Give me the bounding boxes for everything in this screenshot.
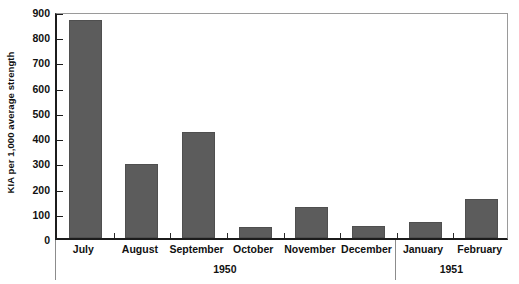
bar[interactable]	[465, 199, 498, 238]
x-axis-group-labels: 19501951	[55, 263, 508, 279]
y-axis-tick-label: 0	[18, 235, 50, 246]
x-axis-category-label: October	[233, 243, 273, 255]
plot-frame	[55, 13, 508, 240]
plot-area	[57, 14, 507, 238]
x-axis-category-label: September	[169, 243, 223, 255]
y-axis-tick-mark	[57, 14, 63, 15]
x-axis-tick-mark	[227, 233, 228, 238]
x-axis-category-label: July	[73, 243, 94, 255]
x-axis-tick-mark	[340, 233, 341, 238]
bar[interactable]	[295, 207, 328, 238]
y-axis-tick-mark	[57, 140, 63, 141]
x-axis-tick-mark	[453, 233, 454, 238]
bar-chart: KIA per 1,000 average strength 010020030…	[0, 0, 519, 284]
y-axis-tick-mark	[57, 115, 63, 116]
x-axis-group-label: 1951	[440, 263, 463, 275]
x-axis-category-label: December	[341, 243, 392, 255]
y-axis-tick-label: 800	[18, 33, 50, 44]
bar[interactable]	[182, 132, 215, 238]
y-axis-tick-label: 600	[18, 83, 50, 94]
y-axis-tick-mark	[57, 191, 63, 192]
bar[interactable]	[125, 164, 158, 238]
y-axis-tick-label: 700	[18, 58, 50, 69]
y-axis-tick-mark	[57, 216, 63, 217]
y-axis-tick-label: 500	[18, 109, 50, 120]
y-axis-tick-label: 200	[18, 184, 50, 195]
x-axis-tick-mark	[284, 233, 285, 238]
x-axis-tick-mark	[114, 233, 115, 238]
x-axis-category-label: January	[403, 243, 443, 255]
y-axis-tick-mark	[57, 39, 63, 40]
y-axis-tick-label: 400	[18, 134, 50, 145]
x-axis-tick-mark	[170, 233, 171, 238]
bar[interactable]	[409, 222, 442, 238]
y-axis-tick-labels: 0100200300400500600700800900	[18, 0, 50, 250]
y-axis-title: KIA per 1,000 average strength	[0, 0, 20, 245]
x-axis-category-label: February	[457, 243, 502, 255]
y-axis-tick-mark	[57, 64, 63, 65]
x-axis-group-separator	[395, 240, 396, 280]
x-axis-group-label: 1950	[213, 263, 236, 275]
x-axis-tick-mark	[397, 233, 398, 238]
x-axis-category-labels: JulyAugustSeptemberOctoberNovemberDecemb…	[55, 243, 508, 261]
bar[interactable]	[352, 226, 385, 238]
bar[interactable]	[239, 227, 272, 238]
y-axis-tick-label: 900	[18, 8, 50, 19]
x-axis-category-label: November	[284, 243, 335, 255]
y-axis-tick-mark	[57, 165, 63, 166]
x-axis-group-separator	[55, 240, 56, 280]
y-axis-tick-mark	[57, 90, 63, 91]
y-axis-tick-label: 300	[18, 159, 50, 170]
bar[interactable]	[69, 20, 102, 238]
y-axis-title-text: KIA per 1,000 average strength	[5, 51, 16, 193]
x-axis-category-label: August	[122, 243, 158, 255]
y-axis-tick-label: 100	[18, 210, 50, 221]
